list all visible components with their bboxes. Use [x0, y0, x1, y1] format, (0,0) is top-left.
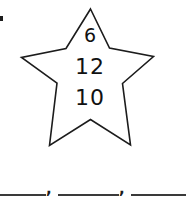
answer-blank-3[interactable] [131, 194, 186, 196]
answer-blanks-row: , , [0, 186, 186, 204]
answer-separator-1: , [46, 182, 52, 197]
answer-blank-1[interactable] [0, 194, 46, 196]
star-number-top: 6 [60, 26, 120, 45]
star-number-middle: 12 [60, 56, 120, 78]
edge-artifact-mark [0, 16, 3, 21]
star-number-bottom: 10 [60, 87, 120, 109]
worksheet-page: 6 12 10 , , [0, 0, 186, 210]
answer-separator-2: , [119, 182, 125, 197]
answer-blank-2[interactable] [58, 194, 119, 196]
